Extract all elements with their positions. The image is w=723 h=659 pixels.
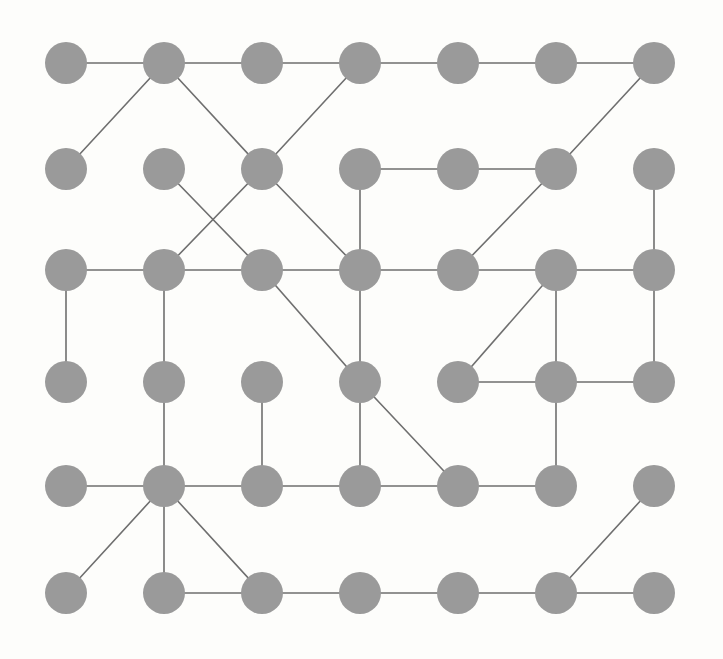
graph-node[interactable] — [143, 572, 185, 614]
graph-node[interactable] — [45, 572, 87, 614]
graph-node[interactable] — [241, 249, 283, 291]
graph-node[interactable] — [45, 361, 87, 403]
graph-node[interactable] — [633, 148, 675, 190]
graph-node[interactable] — [535, 465, 577, 507]
graph-edge — [556, 63, 654, 169]
graph-node[interactable] — [437, 148, 479, 190]
graph-node[interactable] — [633, 249, 675, 291]
graph-edge — [164, 486, 262, 593]
graph-node[interactable] — [143, 361, 185, 403]
graph-edge — [458, 169, 556, 270]
graph-node[interactable] — [535, 249, 577, 291]
graph-edge — [262, 169, 360, 270]
graph-node[interactable] — [45, 42, 87, 84]
graph-edge — [66, 63, 164, 169]
graph-edge — [262, 63, 360, 169]
graph-edge — [164, 63, 262, 169]
graph-diagram — [0, 0, 723, 659]
graph-node[interactable] — [143, 42, 185, 84]
graph-node[interactable] — [437, 465, 479, 507]
graph-node[interactable] — [339, 361, 381, 403]
graph-node[interactable] — [143, 465, 185, 507]
graph-node[interactable] — [339, 249, 381, 291]
graph-node[interactable] — [339, 42, 381, 84]
graph-edge — [360, 382, 458, 486]
graph-node[interactable] — [339, 148, 381, 190]
graph-node[interactable] — [633, 572, 675, 614]
graph-node[interactable] — [241, 361, 283, 403]
graph-node[interactable] — [535, 572, 577, 614]
graph-node[interactable] — [45, 148, 87, 190]
graph-node[interactable] — [241, 42, 283, 84]
graph-node[interactable] — [535, 148, 577, 190]
graph-node[interactable] — [437, 572, 479, 614]
graph-node[interactable] — [241, 465, 283, 507]
graph-node[interactable] — [633, 42, 675, 84]
graph-node[interactable] — [535, 361, 577, 403]
graph-node[interactable] — [437, 361, 479, 403]
graph-node[interactable] — [535, 42, 577, 84]
graph-node[interactable] — [241, 572, 283, 614]
graph-edge — [66, 486, 164, 593]
graph-node[interactable] — [339, 465, 381, 507]
graph-node[interactable] — [339, 572, 381, 614]
graph-edge — [458, 270, 556, 382]
edge-layer — [66, 63, 654, 593]
graph-node[interactable] — [143, 148, 185, 190]
graph-canvas — [0, 0, 723, 659]
graph-node[interactable] — [437, 249, 479, 291]
graph-node[interactable] — [437, 42, 479, 84]
graph-edge — [262, 270, 360, 382]
graph-node[interactable] — [241, 148, 283, 190]
graph-node[interactable] — [45, 249, 87, 291]
graph-edge — [556, 486, 654, 593]
graph-node[interactable] — [143, 249, 185, 291]
graph-node[interactable] — [633, 361, 675, 403]
graph-node[interactable] — [45, 465, 87, 507]
graph-node[interactable] — [633, 465, 675, 507]
